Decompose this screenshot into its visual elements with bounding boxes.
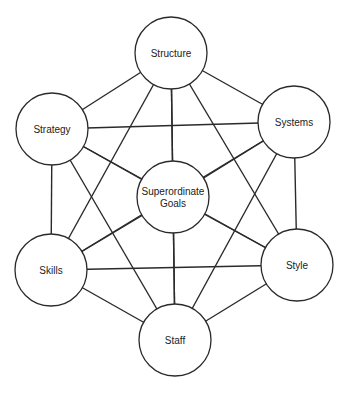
node-label: Superordinate [142, 186, 205, 197]
node-systems: Systems [258, 86, 330, 158]
node-superordinate-goals: SuperordinateGoals [137, 161, 209, 233]
node-strategy: Strategy [16, 93, 88, 165]
node-skills: Skills [15, 234, 87, 306]
node-label: Strategy [33, 124, 70, 135]
nodes: StructureStrategySystemsSuperordinateGoa… [15, 17, 333, 376]
node-structure: Structure [135, 17, 207, 89]
node-label: Structure [151, 48, 192, 59]
seven-s-diagram: StructureStrategySystemsSuperordinateGoa… [0, 0, 351, 395]
node-style: Style [261, 229, 333, 301]
node-staff: Staff [139, 304, 211, 376]
node-label: Staff [165, 335, 186, 346]
node-label: Systems [275, 117, 313, 128]
node-label: Goals [160, 198, 186, 209]
node-label: Skills [39, 265, 62, 276]
node-label: Style [286, 260, 309, 271]
